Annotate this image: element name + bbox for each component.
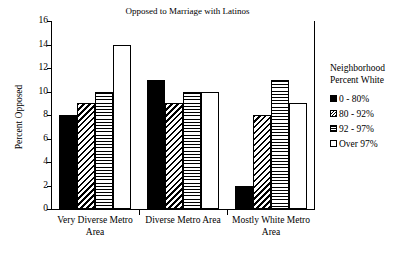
legend-title: NeighborhoodPercent White (330, 63, 414, 86)
legend-items: 0 - 80%80 - 92%92 - 97%Over 97% (330, 91, 414, 151)
legend-swatch-icon (330, 125, 337, 132)
legend-item-label: 92 - 97% (339, 124, 374, 134)
x-category-label: Mostly White MetroArea (221, 214, 321, 238)
x-category-label-line: Very Diverse Metro (45, 214, 145, 226)
legend-swatch-icon (330, 95, 337, 102)
legend-item-label: 0 - 80% (339, 94, 369, 104)
legend-item-label: Over 97% (339, 139, 378, 149)
chart-title: Opposed to Marriage with Latinos (60, 6, 315, 17)
legend: NeighborhoodPercent White 0 - 80%80 - 92… (330, 63, 414, 151)
bar (235, 186, 253, 210)
bar (183, 92, 201, 210)
x-category-label-line: Area (45, 226, 145, 238)
bar (77, 103, 95, 209)
legend-item[interactable]: 80 - 92% (330, 106, 414, 121)
bar (95, 92, 113, 210)
plot-right-edge (314, 21, 315, 210)
x-category-label-line: Diverse Metro Area (133, 214, 233, 226)
y-tick-label: 8 (43, 109, 48, 120)
y-tick-label: 14 (39, 39, 49, 50)
y-axis-label: Percent Opposed (14, 57, 24, 177)
y-tick-label: 2 (43, 180, 48, 191)
legend-swatch-icon (330, 110, 337, 117)
y-tick-label: 0 (43, 203, 48, 214)
y-tick-label: 4 (43, 156, 48, 167)
y-axis-line (51, 21, 52, 210)
y-tick-label: 10 (39, 86, 49, 97)
plot-area: 0246810121416 (51, 21, 315, 210)
y-tick-label: 16 (39, 15, 49, 26)
bar (289, 103, 307, 209)
y-tick-label: 6 (43, 133, 48, 144)
x-category-label-line: Mostly White Metro (221, 214, 321, 226)
x-category-label: Very Diverse MetroArea (45, 214, 145, 238)
legend-item[interactable]: Over 97% (330, 136, 414, 151)
legend-title-line: Percent White (330, 75, 414, 87)
x-category-label: Diverse Metro Area (133, 214, 233, 226)
legend-item-label: 80 - 92% (339, 109, 374, 119)
bar (113, 45, 131, 210)
bar (201, 92, 219, 210)
bar (253, 115, 271, 209)
bar (147, 80, 165, 209)
legend-item[interactable]: 0 - 80% (330, 91, 414, 106)
x-category-label-line: Area (221, 226, 321, 238)
bar (165, 103, 183, 209)
legend-swatch-icon (330, 140, 337, 147)
legend-title-line: Neighborhood (330, 63, 414, 75)
bar-chart-figure: Opposed to Marriage with Latinos Percent… (0, 0, 414, 256)
x-axis-line (51, 209, 315, 210)
bar (271, 80, 289, 209)
legend-item[interactable]: 92 - 97% (330, 121, 414, 136)
bar (59, 115, 77, 209)
y-tick-label: 12 (39, 62, 49, 73)
